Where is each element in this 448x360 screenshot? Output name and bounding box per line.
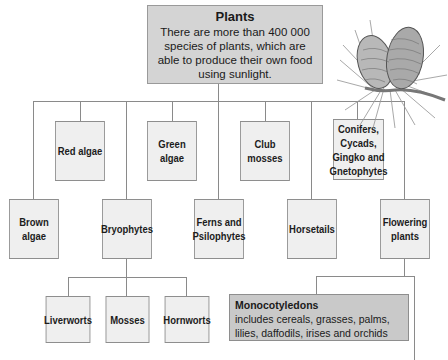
connector-root-down (218, 84, 219, 101)
connector-liverworts (68, 277, 69, 296)
node-liverworts: Liverworts (46, 296, 91, 343)
connector-green-algae (172, 101, 173, 121)
root-title: Plants (148, 9, 322, 25)
node-label: Club mosses (247, 137, 282, 165)
node-label: Ferns and Psilophytes (192, 215, 245, 243)
root-description: There are more than 400 000 species of p… (148, 25, 322, 81)
monocotyledons-description: includes cereals, grasses, palms, lilies… (235, 312, 403, 340)
connector-flowering-continue (414, 276, 415, 360)
node-red-algae: Red algae (55, 121, 105, 181)
node-mosses: Mosses (106, 296, 150, 343)
node-label: Bryophytes (101, 222, 153, 236)
node-label: Mosses (110, 313, 145, 327)
node-label: Green algae (148, 137, 196, 165)
connector-ferns (218, 101, 219, 199)
node-brown-algae: Brown algae (9, 199, 59, 259)
root-node-plants: Plants There are more than 400 000 speci… (147, 5, 323, 84)
connector-flowering-down (404, 258, 405, 276)
node-ferns: Ferns and Psilophytes (194, 199, 244, 259)
node-monocotyledons: Monocotyledons includes cereals, grasses… (229, 294, 409, 341)
node-label: Hornworts (163, 313, 210, 327)
connector-red-algae (80, 101, 81, 121)
connector-bryophytes-horizontal (68, 277, 186, 278)
node-label: Brown algae (19, 215, 48, 243)
node-label: Red algae (58, 144, 103, 158)
node-flowering-plants: Flowering plants (380, 199, 430, 259)
node-horsetails: Horsetails (287, 199, 337, 259)
connector-flowering-horizontal (316, 276, 415, 277)
node-bryophytes: Bryophytes (102, 199, 152, 259)
pine-cones-icon (335, 0, 448, 130)
connector-bryophytes-down (126, 258, 127, 277)
node-hornworts: Hornworts (165, 296, 210, 343)
connector-bryophytes (126, 101, 127, 199)
connector-club-mosses (265, 101, 266, 121)
connector-mosses (126, 277, 127, 296)
node-green-algae: Green algae (147, 121, 197, 181)
connector-monocotyledons (316, 276, 317, 294)
connector-hornworts (186, 277, 187, 296)
connector-horsetails (311, 101, 312, 199)
node-club-mosses: Club mosses (240, 121, 290, 181)
node-label: Horsetails (289, 222, 335, 236)
connector-brown-algae (33, 101, 34, 199)
node-label: Liverworts (44, 313, 92, 327)
node-label: Flowering plants (383, 215, 428, 243)
monocotyledons-title: Monocotyledons (235, 298, 403, 312)
